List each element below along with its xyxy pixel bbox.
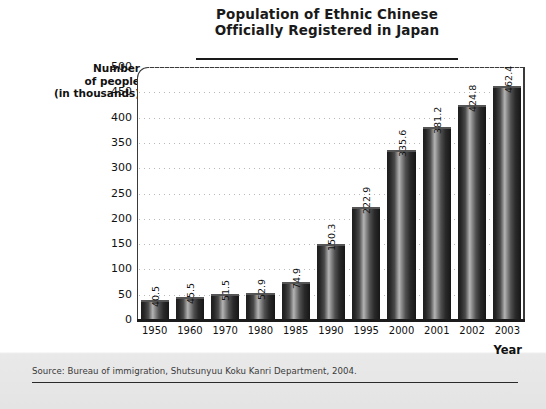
x-axis-tick-label: 1950 [137,325,172,336]
x-axis-tick-label: 1990 [313,325,348,336]
bar-value-label: 462.4 [503,66,514,93]
y-axis-ticks: 500450400350300250200150100500 [78,0,132,409]
title-underline [196,58,458,60]
x-axis-tick-label: 1980 [243,325,278,336]
y-axis-tick-label: 400 [80,111,132,124]
chart-page: Population of Ethnic Chinese Officially … [0,0,546,409]
x-axis-tick-label: 2001 [419,325,454,336]
chart-title-line-1: Population of Ethnic Chinese [196,6,458,22]
bar-value-label: 424.8 [467,85,478,112]
bar-value-label: 222.9 [361,187,372,214]
y-axis-tick-label: 0 [80,313,132,326]
bar [317,244,345,320]
x-axis-tick-label: 1985 [278,325,313,336]
x-axis-tick-label: 1995 [349,325,384,336]
bar-value-label: 40.5 [150,285,161,306]
x-axis-tick-label: 2002 [454,325,489,336]
x-axis-tick-label: 2003 [490,325,525,336]
bar-series: 40.545.551.552.974.9150.3222.9335.6381.2… [137,67,525,320]
bar [352,207,380,320]
bar-value-label: 45.5 [185,283,196,304]
y-axis-tick-label: 200 [80,212,132,225]
y-axis-tick-label: 300 [80,161,132,174]
bar [458,105,486,320]
x-axis-tick-label: 1970 [208,325,243,336]
bar [387,150,415,320]
x-axis-tick-label: 1960 [172,325,207,336]
x-axis-line [137,319,525,321]
y-axis-tick-label: 350 [80,136,132,149]
y-axis-tick-label: 450 [80,85,132,98]
chart-title-line-2: Officially Registered in Japan [196,22,458,38]
y-axis-tick-label: 500 [80,60,132,73]
x-axis-ticks: 1950196019701980198519901995200020012002… [137,325,525,341]
y-axis-tick-label: 100 [80,262,132,275]
bar-value-label: 335.6 [397,130,408,157]
y-axis-tick-label: 250 [80,187,132,200]
bar-value-label: 150.3 [326,224,337,251]
bar-value-label: 74.9 [291,268,302,289]
source-divider [32,382,518,383]
bar [423,127,451,320]
x-axis-tick-label: 2000 [384,325,419,336]
x-axis-title: Year [493,343,522,357]
source-note: Source: Bureau of immigration, Shutsunyu… [32,366,357,376]
bar [493,86,521,320]
bar-value-label: 51.5 [220,280,231,301]
y-axis-tick-label: 150 [80,237,132,250]
bar-value-label: 52.9 [256,279,267,300]
chart-title: Population of Ethnic Chinese Officially … [196,6,458,38]
y-axis-tick-label: 50 [80,288,132,301]
bar-value-label: 381.2 [432,107,443,134]
